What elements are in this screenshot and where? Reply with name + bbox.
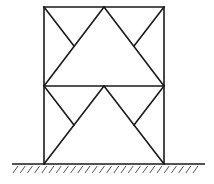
ground-hatch [49, 166, 54, 173]
lower-right-knee-brace [134, 86, 164, 125]
ground-hatch [56, 166, 61, 173]
ground-hatch [107, 166, 112, 173]
ground-hatch [85, 166, 90, 173]
ground-hatch [27, 166, 32, 173]
ground-hatch [63, 166, 68, 173]
upper-left-knee-brace [44, 7, 74, 46]
ground-hatch [121, 166, 126, 173]
upper-right-knee-brace [134, 7, 164, 46]
ground-hatch [150, 166, 155, 173]
lower-left-knee-brace [44, 86, 74, 125]
ground-hatch [171, 166, 176, 173]
ground-hatch [78, 166, 83, 173]
ground-hatch [179, 166, 184, 173]
ground-hatching [13, 166, 198, 173]
ground-hatch [164, 166, 169, 173]
ground-hatch [186, 166, 191, 173]
braced-frame-diagram [0, 0, 214, 184]
ground-hatch [92, 166, 97, 173]
ground-hatch [20, 166, 25, 173]
frame-members [44, 7, 164, 164]
ground-hatch [157, 166, 162, 173]
ground-hatch [71, 166, 76, 173]
ground-hatch [42, 166, 47, 173]
ground-hatch [128, 166, 133, 173]
ground-hatch [114, 166, 119, 173]
ground-hatch [13, 166, 18, 173]
ground-hatch [99, 166, 104, 173]
ground-hatch [193, 166, 198, 173]
ground-hatch [135, 166, 140, 173]
ground-hatch [35, 166, 40, 173]
ground-hatch [143, 166, 148, 173]
